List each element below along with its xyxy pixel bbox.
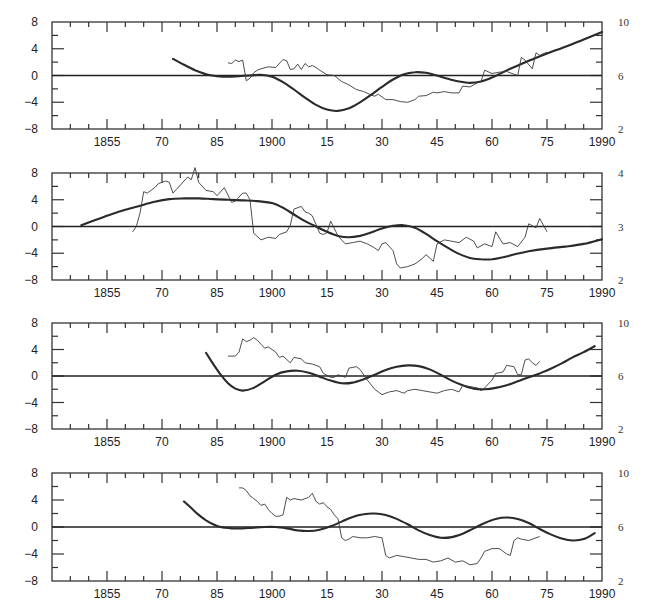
x-tick-label: 70: [155, 286, 169, 300]
x-tick-label: 1855: [94, 587, 121, 601]
x-tick-label: 1990: [589, 435, 616, 449]
x-tick-label: 30: [375, 135, 389, 149]
y-tick-label: 8: [31, 466, 38, 480]
y-tick-label: −4: [24, 547, 38, 561]
y-tick-label: 0: [31, 69, 38, 83]
x-tick-label: 1900: [259, 587, 286, 601]
x-tick-label: 70: [155, 587, 169, 601]
y-tick-label: −8: [24, 122, 38, 136]
y-tick-label: −4: [24, 246, 38, 260]
x-tick-label: 15: [320, 435, 334, 449]
y-tick-label: −4: [24, 95, 38, 109]
observed-series-line: [133, 168, 547, 268]
x-tick-label: 1855: [94, 135, 121, 149]
y-tick-label: 0: [31, 220, 38, 234]
x-tick-label: 1855: [94, 435, 121, 449]
y-tick-label: −8: [24, 574, 38, 588]
y-right-tick-label: 10: [618, 16, 630, 28]
y-tick-label: 8: [31, 316, 38, 330]
y-tick-label: −8: [24, 422, 38, 436]
y-tick-label: −8: [24, 273, 38, 287]
y-right-tick-label: 6: [618, 70, 624, 82]
observed-series-line: [228, 338, 540, 395]
x-tick-label: 30: [375, 435, 389, 449]
y-right-tick-label: 3: [618, 221, 624, 233]
x-tick-label: 45: [430, 435, 444, 449]
x-tick-label: 1855: [94, 286, 121, 300]
x-tick-label: 70: [155, 135, 169, 149]
x-tick-label: 15: [320, 587, 334, 601]
y-right-tick-label: 6: [618, 521, 624, 533]
y-right-tick-label: 2: [618, 423, 624, 435]
smooth-series-line: [206, 346, 595, 390]
y-tick-label: 4: [31, 193, 38, 207]
x-tick-label: 15: [320, 135, 334, 149]
x-tick-label: 45: [430, 587, 444, 601]
x-tick-label: 60: [485, 435, 499, 449]
y-tick-label: 4: [31, 42, 38, 56]
y-right-tick-label: 10: [618, 317, 630, 329]
y-right-tick-label: 10: [618, 467, 630, 479]
x-tick-label: 75: [540, 286, 554, 300]
observed-series-line: [228, 52, 547, 102]
x-tick-label: 75: [540, 587, 554, 601]
x-tick-label: 45: [430, 286, 444, 300]
chart-panel-2: 18557085190015304560751990840−4−8432: [24, 166, 624, 300]
x-tick-label: 1990: [589, 135, 616, 149]
x-tick-label: 70: [155, 435, 169, 449]
x-tick-label: 60: [485, 286, 499, 300]
y-right-tick-label: 2: [618, 123, 624, 135]
x-tick-label: 1990: [589, 587, 616, 601]
y-tick-label: 4: [31, 343, 38, 357]
x-tick-label: 45: [430, 135, 444, 149]
x-tick-label: 15: [320, 286, 334, 300]
x-tick-label: 1900: [259, 135, 286, 149]
y-right-tick-label: 2: [618, 575, 624, 587]
y-tick-label: −4: [24, 396, 38, 410]
x-tick-label: 85: [210, 435, 224, 449]
x-tick-label: 85: [210, 286, 224, 300]
x-tick-label: 75: [540, 435, 554, 449]
x-tick-label: 30: [375, 286, 389, 300]
y-right-tick-label: 2: [618, 274, 624, 286]
x-tick-label: 60: [485, 135, 499, 149]
y-tick-label: 4: [31, 493, 38, 507]
x-tick-label: 85: [210, 135, 224, 149]
x-tick-label: 60: [485, 587, 499, 601]
y-tick-label: 0: [31, 520, 38, 534]
smooth-series-line: [173, 32, 602, 111]
x-tick-label: 1900: [259, 286, 286, 300]
chart-panel-1: 18557085190015304560751990840−4−81062: [24, 15, 629, 149]
x-tick-label: 75: [540, 135, 554, 149]
x-tick-label: 30: [375, 587, 389, 601]
x-tick-label: 1990: [589, 286, 616, 300]
y-tick-label: 0: [31, 369, 38, 383]
y-right-tick-label: 6: [618, 370, 624, 382]
y-tick-label: 8: [31, 166, 38, 180]
x-tick-label: 1900: [259, 435, 286, 449]
smooth-series-line: [184, 501, 595, 540]
chart-panel-3: 18557085190015304560751990840−4−81062: [24, 316, 629, 449]
x-tick-label: 85: [210, 587, 224, 601]
chart-panel-4: 18557085190015304560751990840−4−81062: [24, 466, 629, 601]
y-right-tick-label: 4: [618, 167, 624, 179]
smooth-series-line: [81, 198, 602, 259]
y-tick-label: 8: [31, 15, 38, 29]
multi-panel-chart: 18557085190015304560751990840−4−81062185…: [0, 0, 649, 615]
